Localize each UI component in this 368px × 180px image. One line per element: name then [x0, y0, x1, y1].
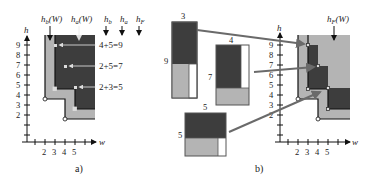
svg-text:2: 2 — [295, 147, 299, 157]
svg-text:ha(W): ha(W) — [71, 14, 92, 25]
y-tick-labels-b: 9 8 7 6 5 4 3 2 — [269, 40, 274, 120]
x-axis-label-b: w — [352, 137, 358, 147]
panel-a: h w 9 8 7 6 5 4 3 2 2 3 4 5 — [16, 14, 146, 175]
x-axis-label: w — [99, 137, 105, 147]
svg-text:5: 5 — [269, 80, 273, 90]
svg-text:4: 4 — [229, 35, 234, 45]
hF-W-label: hF(W) — [327, 14, 349, 25]
svg-text:9: 9 — [16, 40, 20, 50]
svg-text:6: 6 — [16, 70, 20, 80]
block-3x9: 3 9 — [164, 11, 197, 98]
svg-text:7: 7 — [269, 60, 273, 70]
y-axis-label-b: h — [277, 23, 282, 33]
svg-text:3: 3 — [269, 100, 273, 110]
caption-b: b) — [255, 163, 263, 175]
svg-text:4: 4 — [269, 90, 274, 100]
figure-canvas: h w 9 8 7 6 5 4 3 2 2 3 4 5 — [0, 0, 368, 180]
caption-a: a) — [75, 163, 83, 175]
svg-text:8: 8 — [269, 50, 273, 60]
svg-text:5: 5 — [325, 147, 329, 157]
svg-text:3: 3 — [52, 147, 56, 157]
svg-text:3: 3 — [305, 147, 309, 157]
block-4x7: 4 7 — [208, 35, 249, 105]
svg-text:2: 2 — [42, 147, 46, 157]
y-tick-labels: 9 8 7 6 5 4 3 2 — [16, 40, 21, 120]
svg-text:7: 7 — [208, 72, 212, 82]
y-axis-label: h — [24, 25, 29, 35]
svg-text:hF: hF — [136, 14, 146, 25]
x-tick-labels: 2 3 4 5 — [42, 147, 76, 157]
panel-b: 3 9 4 7 5 5 — [164, 11, 358, 175]
svg-text:4: 4 — [315, 147, 320, 157]
block-5x5: 5 5 — [178, 102, 226, 156]
svg-text:5: 5 — [72, 147, 76, 157]
sum-label-5: 2+3=5 — [99, 82, 123, 92]
svg-text:5: 5 — [16, 80, 20, 90]
svg-text:3: 3 — [181, 11, 185, 21]
svg-text:8: 8 — [16, 50, 20, 60]
svg-text:2: 2 — [16, 110, 20, 120]
sum-label-9: 4+5=9 — [99, 40, 123, 50]
svg-text:9: 9 — [269, 40, 273, 50]
svg-text:3: 3 — [16, 100, 20, 110]
svg-text:4: 4 — [62, 147, 67, 157]
svg-text:ha: ha — [120, 14, 128, 25]
svg-text:5: 5 — [178, 130, 182, 140]
sum-label-7: 2+5=7 — [99, 61, 123, 71]
svg-text:7: 7 — [16, 60, 20, 70]
svg-text:5: 5 — [203, 102, 207, 112]
svg-text:4: 4 — [16, 90, 21, 100]
x-tick-labels-b: 2 3 4 5 — [295, 147, 329, 157]
top-labels: hb(W) ha(W) hb ha hF — [41, 14, 146, 25]
svg-text:hb: hb — [104, 14, 113, 25]
svg-text:hb(W): hb(W) — [41, 14, 62, 25]
svg-text:9: 9 — [164, 56, 168, 66]
